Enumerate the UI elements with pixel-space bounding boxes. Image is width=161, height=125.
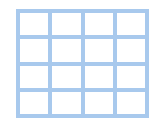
grid-cell xyxy=(117,92,145,114)
grid-cell xyxy=(20,66,48,88)
grid-cell xyxy=(85,66,113,88)
grid-cell xyxy=(117,39,145,61)
grid-cell xyxy=(117,66,145,88)
grid-cell xyxy=(20,92,48,114)
grid-cell xyxy=(52,92,80,114)
grid-cell xyxy=(52,66,80,88)
grid-table-icon xyxy=(16,9,149,118)
grid-cell xyxy=(20,13,48,35)
grid-cell xyxy=(117,13,145,35)
grid-cell xyxy=(52,39,80,61)
grid-cell xyxy=(85,39,113,61)
grid-cell xyxy=(85,13,113,35)
grid-cell xyxy=(52,13,80,35)
grid-cell xyxy=(85,92,113,114)
grid-cell xyxy=(20,39,48,61)
